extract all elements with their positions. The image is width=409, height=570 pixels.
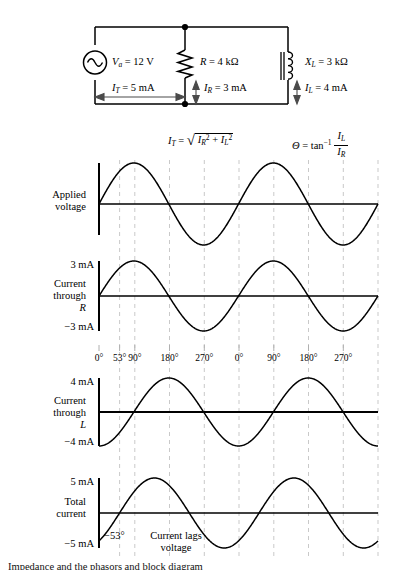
formula-phase-eq: = xyxy=(302,140,308,151)
figure-root: Va = 12 V R = 4 kΩ XL = 3 kΩ IT = 5 mA I… xyxy=(0,0,409,570)
axis-tick-180: 180° xyxy=(154,352,186,364)
waveform-current-through-l xyxy=(0,370,409,462)
axis-tick-540: 180° xyxy=(293,352,325,364)
node-dot-top xyxy=(182,24,188,30)
current-inductor-sub: L xyxy=(309,86,313,95)
formula-eq: = xyxy=(178,135,184,146)
formula-den-sub: R xyxy=(341,149,346,158)
panel-current-through-l: Current through L 4 mA −4 mA xyxy=(0,370,409,462)
annotation-lag-line-0: Current lags xyxy=(128,530,224,542)
current-total-sub: T xyxy=(116,86,120,95)
waveform-applied-voltage xyxy=(0,160,409,255)
axis-tick-270: 270° xyxy=(188,352,220,364)
axis-tick-450: 90° xyxy=(260,352,288,364)
resistor-icon xyxy=(178,50,192,78)
axis-tick-90: 90° xyxy=(121,352,149,364)
formula-plus: + xyxy=(212,134,218,145)
formula-total-current: IT = √ IR2 + IL2 xyxy=(168,133,233,150)
resistor-value: = 4 kΩ xyxy=(209,56,238,67)
formula-tan-sup: −1 xyxy=(324,138,332,147)
double-arrow-vertical-icon-r xyxy=(193,81,199,104)
current-resistor-sub: R xyxy=(208,86,213,95)
formula-theta: Θ xyxy=(292,140,300,151)
current-inductor-value: = 4 mA xyxy=(315,82,347,93)
resistor-label: R = 4 kΩ xyxy=(200,56,239,68)
ac-source-icon xyxy=(84,51,107,74)
inductor-label: XL = 3 kΩ xyxy=(305,56,348,71)
axis-tick-630: 270° xyxy=(327,352,359,364)
formula-tan: tan xyxy=(311,140,324,151)
annotation-lag-line-1: voltage xyxy=(128,542,224,554)
current-inductor-label: IL = 4 mA xyxy=(305,82,347,97)
inductor-sub: L xyxy=(311,60,315,69)
current-resistor-value: = 3 mA xyxy=(215,82,247,93)
formula-term2-sup: 2 xyxy=(228,133,232,142)
waveform-current-through-r xyxy=(0,253,409,348)
source-sub: a xyxy=(118,60,122,69)
panel-total-current: Total current 5 mA −5 mA −53° Current la… xyxy=(0,470,409,565)
panel-current-through-r: Current through R 3 mA −3 mA xyxy=(0,253,409,348)
annotation-phase-angle: −53° xyxy=(104,530,125,542)
panel-applied-voltage: Applied voltage xyxy=(0,160,409,255)
resistor-var: R xyxy=(200,56,206,67)
current-resistor-label: IR = 3 mA xyxy=(204,82,247,97)
circuit-diagram: Va = 12 V R = 4 kΩ XL = 3 kΩ IT = 5 mA I… xyxy=(0,0,409,125)
figure-caption: Impedance and the phasors and block diag… xyxy=(8,561,408,570)
formula-num-sub: L xyxy=(341,134,345,143)
source-label: Va = 12 V xyxy=(112,56,154,71)
formula-lhs-sub: T xyxy=(172,139,176,148)
angle-axis: 0° 53° 90° 180° 270° 0° 90° 180° 270° xyxy=(0,345,409,367)
current-total-value: = 5 mA xyxy=(122,82,154,93)
formula-row: IT = √ IR2 + IL2 Θ = tan−1 IL IR xyxy=(0,128,409,156)
double-arrow-vertical-icon-l xyxy=(294,81,300,104)
annotation-lag-text: Current lags voltage xyxy=(128,530,224,554)
formula-term1-sup: 2 xyxy=(206,133,210,142)
node-dot-bottom xyxy=(182,101,188,107)
formula-phase-angle: Θ = tan−1 IL IR xyxy=(292,131,348,161)
radical-icon: √ xyxy=(187,132,195,148)
axis-tick-360: 0° xyxy=(225,352,253,364)
source-value: = 12 V xyxy=(125,56,154,67)
current-total-label: IT = 5 mA xyxy=(112,82,154,97)
inductor-icon xyxy=(281,52,293,80)
inductor-value: = 3 kΩ xyxy=(318,56,347,67)
